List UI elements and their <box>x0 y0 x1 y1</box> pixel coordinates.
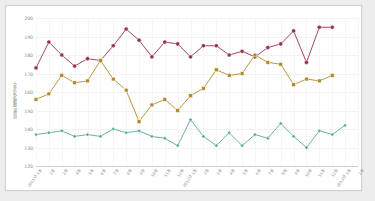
data-point-marker <box>137 129 141 133</box>
chart-svg <box>36 18 358 166</box>
data-point-marker <box>86 79 90 83</box>
series-line <box>36 55 332 122</box>
data-point-marker <box>73 81 77 85</box>
data-point-marker <box>227 73 231 77</box>
data-point-marker <box>214 68 218 72</box>
x-axis-tick-label: 6월 <box>99 167 108 176</box>
data-point-marker <box>86 133 90 137</box>
data-point-marker <box>240 49 244 53</box>
data-point-marker <box>279 62 283 66</box>
x-axis-tick-label: 8월 <box>124 167 133 176</box>
data-point-marker <box>47 131 51 135</box>
data-point-marker <box>292 83 296 87</box>
x-axis-tick-label: 4월 <box>227 167 236 176</box>
gridline-vertical <box>358 18 359 166</box>
x-axis-tick-label: 2월 <box>47 167 56 176</box>
x-axis-tick-label: 3월 <box>60 167 69 176</box>
data-point-marker <box>111 44 115 48</box>
y-axis-tick-label: 200 <box>24 16 36 21</box>
data-point-marker <box>201 44 205 48</box>
x-axis-tick-label: 8월 <box>279 167 288 176</box>
data-point-marker <box>317 79 321 83</box>
data-point-marker <box>137 120 141 124</box>
y-axis-tick-label: 120 <box>24 164 36 169</box>
y-axis-tick-label: 180 <box>24 53 36 58</box>
data-point-marker <box>47 92 51 96</box>
series-line <box>36 27 332 68</box>
data-point-marker <box>73 64 77 68</box>
series-diamond <box>34 118 347 150</box>
x-axis-tick-label: 6월 <box>253 167 262 176</box>
data-point-marker <box>34 66 38 70</box>
data-point-marker <box>189 94 193 98</box>
data-point-marker <box>253 53 257 57</box>
data-point-marker <box>85 57 89 61</box>
data-point-marker <box>150 135 154 139</box>
series-line <box>36 120 345 148</box>
x-axis-tick-label: 11월 <box>316 167 326 178</box>
x-axis-tick-label: 7월 <box>266 167 275 176</box>
data-point-marker <box>279 42 283 46</box>
data-point-marker <box>34 98 38 102</box>
data-point-marker <box>176 144 180 148</box>
data-point-marker <box>124 131 128 135</box>
data-point-marker <box>227 53 231 57</box>
data-point-marker <box>188 55 192 59</box>
plot-area: 120130140150160170180190200 <box>36 18 358 166</box>
x-axis-tick-label: 10월 <box>303 167 313 178</box>
data-point-marker <box>111 77 115 81</box>
data-point-marker <box>124 88 128 92</box>
series-circle <box>34 25 334 70</box>
x-axis-tick-label: 9월 <box>292 167 301 176</box>
data-point-marker <box>34 133 38 137</box>
data-point-marker <box>176 42 180 46</box>
y-axis-tick-label: 140 <box>24 127 36 132</box>
x-axis-tick-label: 12월 <box>329 167 339 178</box>
x-axis-tick-label: 11월 <box>162 167 172 178</box>
x-axis-tick-label: 2월 <box>356 167 365 176</box>
x-axis-tick-label: 7월 <box>112 167 121 176</box>
x-axis-tick-label: 5월 <box>86 167 95 176</box>
data-point-marker <box>137 38 141 42</box>
data-point-marker <box>163 40 167 44</box>
x-axis-tick-label: 3월 <box>215 167 224 176</box>
y-axis-tick-label: 170 <box>24 71 36 76</box>
data-point-marker <box>73 135 77 139</box>
data-point-marker <box>330 25 334 29</box>
data-point-marker <box>266 61 270 65</box>
screenshot-root: 아파트매매가격지수 120130140150160170180190200 20… <box>0 0 375 201</box>
x-axis-tick-label: 2011년 1월 <box>26 167 43 188</box>
x-axis-tick-label: 2월 <box>202 167 211 176</box>
data-point-marker <box>163 98 167 102</box>
data-point-marker <box>150 103 154 107</box>
data-point-marker <box>214 44 218 48</box>
data-point-marker <box>124 27 128 31</box>
y-axis-title: 아파트매매가격지수 <box>11 66 21 136</box>
data-point-marker <box>304 60 308 64</box>
data-point-marker <box>317 25 321 29</box>
x-axis-tick-label: 12월 <box>175 167 185 178</box>
data-point-marker <box>163 136 167 140</box>
y-axis-tick-label: 130 <box>24 145 36 150</box>
y-axis-tick-label: 160 <box>24 90 36 95</box>
y-axis-tick-label: 190 <box>24 34 36 39</box>
data-point-marker <box>240 72 244 76</box>
data-point-marker <box>305 77 309 81</box>
data-point-marker <box>60 129 64 133</box>
data-point-marker <box>176 109 180 113</box>
data-point-marker <box>99 59 103 63</box>
data-point-marker <box>47 40 51 44</box>
data-point-marker <box>202 86 206 90</box>
data-point-marker <box>330 73 334 77</box>
data-point-marker <box>150 55 154 59</box>
x-axis-tick-label: 10월 <box>149 167 159 178</box>
data-point-marker <box>60 53 64 57</box>
data-point-marker <box>99 135 103 139</box>
data-point-marker <box>111 127 115 131</box>
y-axis-tick-label: 150 <box>24 108 36 113</box>
data-point-marker <box>266 46 270 50</box>
x-axis-tick-label: 9월 <box>137 167 146 176</box>
x-axis-ticks: 2011년 1월2월3월4월5월6월7월8월9월10월11월12월2012년 1… <box>36 167 358 201</box>
x-axis-tick-label: 4월 <box>73 167 82 176</box>
data-point-marker <box>292 29 296 33</box>
